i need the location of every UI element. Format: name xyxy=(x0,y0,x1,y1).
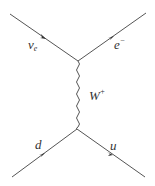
label-up-quark: u xyxy=(110,139,117,152)
up-quark-line xyxy=(77,129,145,177)
label-electron-neutrino: νe xyxy=(28,38,37,53)
label-down-quark: d xyxy=(35,138,42,151)
label-electron: e− xyxy=(114,37,125,51)
down-quark-line xyxy=(12,129,77,177)
w-boson-wavy-line xyxy=(76,61,79,129)
feynman-diagram xyxy=(0,0,155,186)
label-w-boson: W+ xyxy=(89,88,105,102)
